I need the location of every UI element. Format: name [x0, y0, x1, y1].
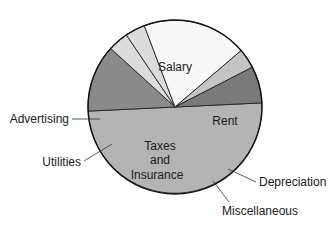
miscellaneous-label: Miscellaneous: [222, 204, 298, 218]
salary-label: Salary: [158, 60, 192, 74]
miscellaneous-leader-line: [213, 181, 229, 202]
taxes-label-line3: Insurance: [131, 168, 184, 182]
rent-label: Rent: [212, 114, 238, 128]
utilities-label: Utilities: [42, 155, 81, 169]
taxes-label-line1: Taxes: [144, 139, 175, 153]
advertising-label: Advertising: [10, 112, 69, 126]
depreciation-label: Depreciation: [259, 175, 326, 189]
pie-chart: Salary Rent Taxes and Insurance Advertis…: [0, 0, 335, 226]
taxes-label-line2: and: [150, 153, 170, 167]
depreciation-leader-line: [228, 169, 256, 182]
